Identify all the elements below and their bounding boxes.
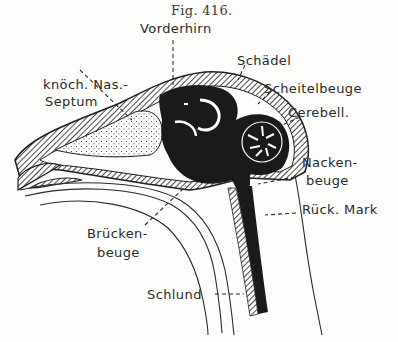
label-brueckenbeuge-2: beuge: [97, 245, 140, 261]
label-brueckenbeuge-1: Brücken-: [87, 226, 148, 242]
label-cerebell: Cerebell.: [288, 105, 349, 121]
label-scheitelbeuge: Scheitelbeuge: [264, 81, 362, 97]
label-schaedel: Schädel: [237, 53, 291, 69]
neck-contours: [20, 175, 322, 335]
label-nackenbeuge-1: Nacken-: [302, 155, 358, 171]
label-vorderhirn: Vorderhirn: [140, 21, 212, 37]
label-nasal-septum-1: knöch. Nas.-: [43, 77, 128, 93]
label-schlund: Schlund: [147, 287, 202, 303]
label-nackenbeuge-2: beuge: [306, 173, 349, 189]
label-rueckenmark: Rück. Mark: [302, 202, 378, 218]
figure-caption: Fig. 416.: [171, 3, 232, 18]
figure-416: Fig. 416. Vorderhirn Schädel knöch. Nas.…: [0, 0, 398, 342]
label-nasal-septum-2: Septum: [45, 94, 98, 110]
